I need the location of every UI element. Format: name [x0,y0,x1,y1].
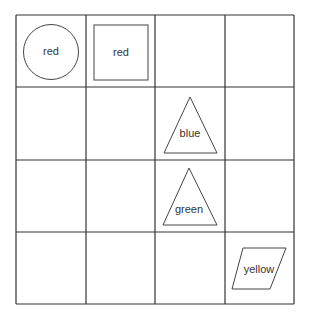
shape-label: yellow [244,263,275,275]
triangle-icon [163,168,217,225]
cell-square-red: red [94,25,148,80]
triangle-icon [164,97,217,153]
shape-grid-diagram: red red blue green yellow [0,0,315,314]
cell-triangle-green: green [163,168,217,225]
cell-triangle-blue: blue [164,97,217,153]
shape-label: red [43,45,59,57]
grid-lines [16,15,294,304]
shape-label: green [175,203,203,215]
cell-circle-red: red [24,25,79,80]
shape-label: blue [180,127,201,139]
shape-label: red [113,46,129,58]
cell-parallelogram-yellow: yellow [232,248,286,289]
